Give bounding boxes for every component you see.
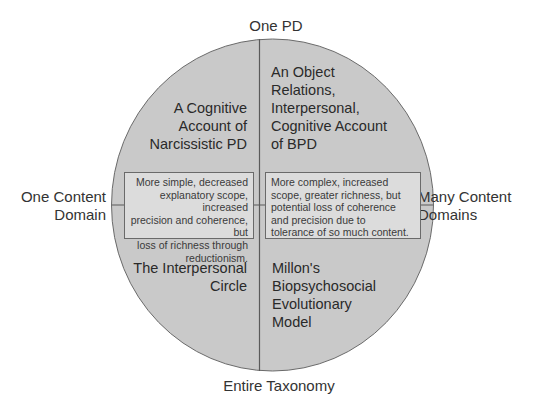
box-right-tradeoff: More complex, increased scope, greater r…	[265, 172, 421, 239]
box-line: tolerance of so much content.	[271, 226, 415, 239]
axis-right-line: Domains	[418, 206, 548, 224]
quadrant-top-left: A Cognitive Account of Narcissistic PD	[120, 99, 247, 153]
quadrant-bottom-right: Millon's Biopsychosocial Evolutionary Mo…	[272, 259, 422, 331]
box-line: scope, greater richness, but	[271, 189, 415, 202]
box-line: precision and coherence, but	[130, 214, 248, 239]
quadrant-line: An Object	[271, 63, 421, 81]
box-left-tradeoff: More simple, decreased explanatory scope…	[124, 172, 254, 239]
quadrant-line: Account of	[120, 117, 247, 135]
axis-left-line: Domain	[10, 206, 106, 224]
quadrant-top-right: An Object Relations, Interpersonal, Cogn…	[271, 63, 421, 153]
axis-top-label: One PD	[0, 17, 548, 35]
box-line: More simple, decreased	[130, 176, 248, 189]
quadrant-line: A Cognitive	[120, 99, 247, 117]
box-line: reductionism.	[130, 252, 248, 265]
box-line: potential loss of coherence	[271, 201, 415, 214]
quadrant-line: Model	[272, 313, 422, 331]
quadrant-line: Relations,	[271, 81, 421, 99]
axis-right-label: Many Content Domains	[418, 188, 548, 224]
quadrant-line: of BPD	[271, 135, 421, 153]
quadrant-bottom-left: The Interpersonal Circle	[120, 259, 247, 295]
box-line: More complex, increased	[271, 176, 415, 189]
quadrant-line: Millon's	[272, 259, 422, 277]
box-line: loss of richness through	[130, 239, 248, 252]
quadrant-line: Evolutionary	[272, 295, 422, 313]
quadrant-line: Cognitive Account	[271, 117, 421, 135]
quadrant-line: Interpersonal,	[271, 99, 421, 117]
box-line: explanatory scope, increased	[130, 189, 248, 214]
quadrant-line: Narcissistic PD	[120, 135, 247, 153]
box-line: and precision due to	[271, 214, 415, 227]
quadrant-line: Biopsychosocial	[272, 277, 422, 295]
axis-left-line: One Content	[10, 188, 106, 206]
axis-right-line: Many Content	[418, 188, 548, 206]
axis-left-label: One Content Domain	[10, 188, 106, 224]
axis-bottom-label: Entire Taxonomy	[0, 377, 548, 395]
quadrant-line: Circle	[120, 277, 247, 295]
